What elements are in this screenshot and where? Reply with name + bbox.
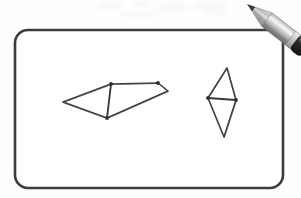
scene-svg [0, 0, 301, 198]
vertex-marker [206, 96, 210, 100]
drawing-frame [15, 30, 283, 188]
sketch-canvas [0, 0, 301, 198]
vertex-marker [105, 116, 109, 120]
vertex-marker [234, 98, 238, 102]
vertex-marker [109, 82, 113, 86]
vertex-marker [156, 81, 160, 85]
